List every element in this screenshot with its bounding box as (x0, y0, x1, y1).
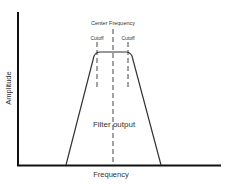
cutoff-left-label: Cutoff (90, 35, 104, 41)
y-axis-label: Amplitude (4, 71, 13, 104)
center-frequency-label: Center Frequency (91, 20, 135, 26)
bandpass-filter-diagram: Center Frequency Cutoff Cutoff Filter ou… (0, 0, 226, 184)
x-axis-label: Frequency (93, 170, 129, 179)
diagram-canvas: Center Frequency Cutoff Cutoff Filter ou… (0, 0, 226, 184)
cutoff-right-label: Cutoff (121, 35, 135, 41)
filter-output-label: Filter output (93, 120, 136, 129)
filter-response-curve (66, 52, 161, 165)
